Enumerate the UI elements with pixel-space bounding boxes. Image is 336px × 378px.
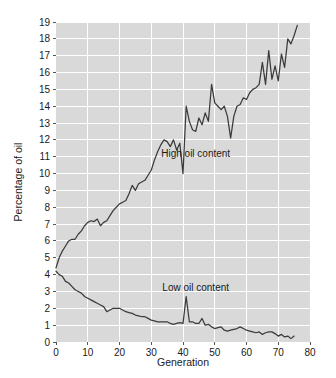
y-tick-label: 18 xyxy=(39,33,51,44)
y-tick-label: 11 xyxy=(40,151,51,162)
y-tick-label: 13 xyxy=(39,118,51,129)
series-annotation: Low oil content xyxy=(162,282,229,293)
y-tick-label: 17 xyxy=(39,50,51,61)
x-tick-label: 60 xyxy=(241,347,253,358)
y-tick-label: 15 xyxy=(39,84,51,95)
y-tick-label: 1 xyxy=(44,320,50,331)
y-axis-title: Percentage of oil xyxy=(12,143,24,222)
x-tick-label: 20 xyxy=(114,347,126,358)
x-tick-label: 70 xyxy=(273,347,285,358)
x-axis-title: Generation xyxy=(157,356,209,368)
y-tick-label: 10 xyxy=(39,168,51,179)
series-annotation: High oil content xyxy=(161,148,230,159)
y-tick-label: 16 xyxy=(39,67,51,78)
y-tick-label: 9 xyxy=(44,185,50,196)
x-tick-label: 50 xyxy=(209,347,221,358)
y-tick-label: 5 xyxy=(44,252,50,263)
y-tick-label: 6 xyxy=(44,235,50,246)
y-tick-label: 19 xyxy=(39,17,51,28)
y-tick-label: 2 xyxy=(44,303,50,314)
x-tick-label: 80 xyxy=(304,347,316,358)
x-tick-label: 0 xyxy=(53,347,59,358)
y-tick-label: 3 xyxy=(44,286,50,297)
y-tick-label: 0 xyxy=(44,337,50,348)
x-tick-label: 10 xyxy=(82,347,94,358)
line-chart: 012345678910111213141516171819 010203040… xyxy=(0,0,336,378)
y-tick-label: 7 xyxy=(44,219,50,230)
y-tick-label: 4 xyxy=(44,269,50,280)
x-tick-label: 30 xyxy=(146,347,158,358)
y-tick-label: 12 xyxy=(39,134,51,145)
figure-container: 012345678910111213141516171819 010203040… xyxy=(0,0,336,378)
y-tick-label: 14 xyxy=(39,101,51,112)
y-tick-label: 8 xyxy=(44,202,50,213)
